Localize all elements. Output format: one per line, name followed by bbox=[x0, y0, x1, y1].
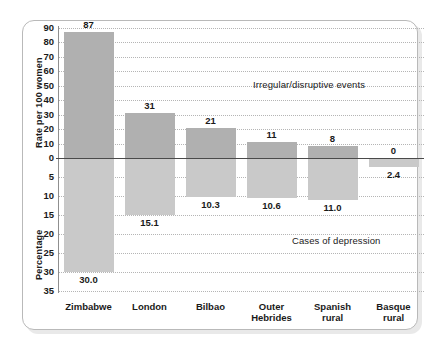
chart-figure: 8730.03115.12110.31110.6811.002.4 908070… bbox=[0, 0, 437, 348]
x-category-label-basque-rural: Basque rural bbox=[363, 301, 424, 323]
bar-value-label-lower: 30.0 bbox=[64, 275, 114, 285]
y-tick-label: 15 bbox=[28, 210, 54, 220]
bar-value-label-upper: 8 bbox=[308, 134, 358, 144]
y-tick-label: 90 bbox=[28, 23, 54, 33]
y-tick-label: 35 bbox=[28, 286, 54, 296]
x-category-label-outer-hebrides: Outer Hebrides bbox=[241, 301, 302, 323]
bar-value-label-upper: 87 bbox=[64, 20, 114, 30]
x-category-label-zimbabwe: Zimbabwe bbox=[58, 301, 119, 312]
bar-value-label-lower: 2.4 bbox=[369, 170, 419, 180]
y-axis-line bbox=[58, 26, 59, 293]
bar-value-label-lower: 10.6 bbox=[247, 201, 297, 211]
y-tick-label: 0 bbox=[28, 153, 54, 163]
bar-lower-london bbox=[125, 158, 175, 215]
gridline bbox=[58, 272, 424, 273]
bar-value-label-upper: 31 bbox=[125, 101, 175, 111]
gridline bbox=[58, 291, 424, 292]
bar-value-label-lower: 11.0 bbox=[308, 203, 358, 213]
bar-lower-outer-hebrides bbox=[247, 158, 297, 198]
bar-value-label-lower: 15.1 bbox=[125, 218, 175, 228]
bar-value-label-upper: 21 bbox=[186, 116, 236, 126]
bar-value-label-upper: 11 bbox=[247, 130, 297, 140]
bar-lower-zimbabwe bbox=[64, 158, 114, 272]
bar-value-label-upper: 0 bbox=[369, 146, 419, 156]
bar-lower-basque-rural bbox=[369, 158, 419, 167]
annotation-irregular-events: Irregular/disruptive events bbox=[253, 79, 365, 90]
bar-value-label-lower: 10.3 bbox=[186, 200, 236, 210]
bar-upper-outer-hebrides bbox=[247, 142, 297, 158]
bar-upper-zimbabwe bbox=[64, 32, 114, 158]
bar-upper-london bbox=[125, 113, 175, 158]
zero-axis-line bbox=[56, 158, 424, 159]
bar-lower-spanish-rural bbox=[308, 158, 358, 200]
bar-lower-bilbao bbox=[186, 158, 236, 197]
y-tick-label: 80 bbox=[28, 37, 54, 47]
bar-upper-spanish-rural bbox=[308, 146, 358, 158]
y-axis-title-lower: Percentage bbox=[34, 229, 44, 280]
y-tick-label: 5 bbox=[28, 172, 54, 182]
y-axis-ticks: 90807060504030201005101520253035 bbox=[26, 0, 54, 348]
y-axis-title-upper: Rate per 100 women bbox=[34, 57, 44, 148]
y-tick-label: 10 bbox=[28, 191, 54, 201]
annotation-cases-of-depression: Cases of depression bbox=[292, 235, 381, 246]
x-category-label-london: London bbox=[119, 301, 180, 312]
x-category-label-bilbao: Bilbao bbox=[180, 301, 241, 312]
x-category-label-spanish-rural: Spanish rural bbox=[302, 301, 363, 323]
plot-area: 8730.03115.12110.31110.6811.002.4 bbox=[58, 28, 424, 291]
bar-upper-bilbao bbox=[186, 128, 236, 158]
